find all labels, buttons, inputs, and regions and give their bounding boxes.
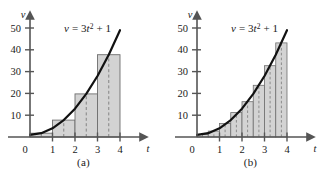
y-tick-label: 30 xyxy=(178,66,189,77)
bar-group-a xyxy=(30,55,120,137)
eq-tail: + 1 xyxy=(263,22,277,34)
y-tick-label: 50 xyxy=(11,23,22,34)
y-tick-label: 50 xyxy=(178,23,189,34)
svg-text:v=3t2+ 1: v=3t2+ 1 xyxy=(64,22,111,35)
x-tick-label: 2 xyxy=(72,144,77,155)
eq-lhs: v xyxy=(231,22,236,34)
y-tick-label: 20 xyxy=(178,88,189,99)
x-tick-label: 3 xyxy=(95,144,100,155)
x-tick-label: 4 xyxy=(117,144,123,155)
eq-tail: + 1 xyxy=(96,22,110,34)
x-tick-label: 2 xyxy=(239,144,244,155)
chart-panel-a: 10 20 30 40 50 0 1 2 3 4 v t v=3t2+ 1 (a… xyxy=(0,0,167,182)
x-axis-label: t xyxy=(314,143,318,154)
x-tick-label: 4 xyxy=(284,144,290,155)
eq-sign: = xyxy=(239,22,245,34)
chart-b-svg: 10 20 30 40 50 0 1 2 3 4 v t v=3t2+ 1 xyxy=(167,0,334,160)
y-tick-label: 40 xyxy=(11,44,22,55)
origin-label: 0 xyxy=(189,144,194,155)
equation-annotation-b: v=3t2+ 1 xyxy=(231,22,278,35)
bar-rect xyxy=(276,43,287,137)
eq-sign: = xyxy=(72,22,78,34)
y-axis-label: v xyxy=(188,9,193,20)
x-tick-label: 3 xyxy=(262,144,267,155)
x-tick-label: 1 xyxy=(50,144,55,155)
panel-caption-a: (a) xyxy=(0,156,167,168)
riemann-sum-figure: 10 20 30 40 50 0 1 2 3 4 v t v=3t2+ 1 (a… xyxy=(0,0,334,182)
panel-caption-b: (b) xyxy=(167,156,334,168)
x-tick-label: 1 xyxy=(217,144,222,155)
origin-label: 0 xyxy=(22,144,27,155)
eq-exponent: 2 xyxy=(257,22,261,31)
svg-text:v=3t2+ 1: v=3t2+ 1 xyxy=(231,22,278,35)
y-tick-label: 10 xyxy=(11,110,22,121)
y-tick-label: 10 xyxy=(178,110,189,121)
chart-a-svg: 10 20 30 40 50 0 1 2 3 4 v t v=3t2+ 1 xyxy=(0,0,167,160)
y-tick-label: 40 xyxy=(178,44,189,55)
x-axis-label: t xyxy=(147,143,151,154)
chart-panel-b: 10 20 30 40 50 0 1 2 3 4 v t v=3t2+ 1 (b… xyxy=(167,0,334,182)
y-tick-label: 20 xyxy=(11,88,22,99)
y-axis-label: v xyxy=(21,9,26,20)
eq-lhs: v xyxy=(64,22,69,34)
eq-exponent: 2 xyxy=(90,22,94,31)
y-tick-label: 30 xyxy=(11,66,22,77)
equation-annotation-a: v=3t2+ 1 xyxy=(64,22,111,35)
